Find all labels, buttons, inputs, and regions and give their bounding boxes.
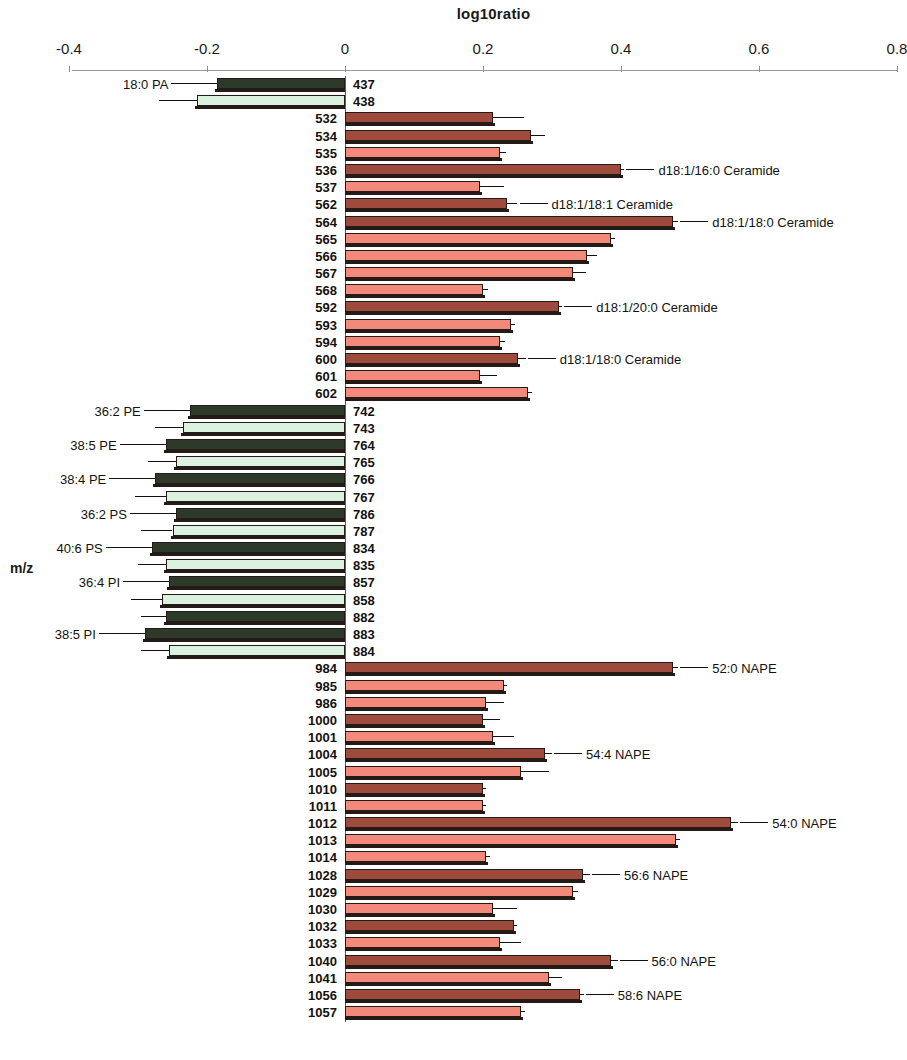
bar [217,78,345,89]
bar-shadow [345,278,575,281]
annotation-leader-line [680,667,708,668]
bar [166,491,345,502]
bar [345,714,483,725]
bar-row: 985 [0,678,907,695]
bar [345,680,504,691]
bar [345,662,673,673]
bar-shadow [153,484,345,487]
bar [345,250,587,261]
error-bar [486,856,489,857]
bar-row: 536d18:1/16:0 Ceramide [0,162,907,179]
bar-shadow [345,398,530,401]
bar-row: 562d18:1/18:1 Ceramide [0,196,907,213]
bar [345,766,521,777]
bar-shadow [345,914,495,917]
mz-value-label: 1005 [308,765,337,780]
bar [345,267,573,278]
bar-shadow [345,227,675,230]
chart-title: log10ratio [0,5,907,22]
mz-value-label: 1033 [308,936,337,951]
x-tick-label: 0.4 [611,40,632,57]
mz-value-label: 743 [353,421,375,436]
bar [345,886,573,897]
annotation-leader-line [586,994,614,995]
annotation-leader-line [109,478,155,479]
bar-shadow [345,330,513,333]
mz-value-label: 1056 [308,988,337,1003]
bar [166,439,345,450]
bar-shadow [345,794,485,797]
error-bar [493,908,517,909]
bar [345,697,486,708]
mz-value-label: 438 [353,94,375,109]
chart-title-text: log10ratio [457,5,531,22]
species-annotation: 40:6 PS [57,541,103,556]
x-tick-mark [207,66,208,72]
bar-shadow [345,209,509,212]
bar-shadow [345,347,502,350]
bar-row: 565 [0,231,907,248]
bar-shadow [345,777,523,780]
bar-row: 1011 [0,798,907,815]
bar [176,508,345,519]
bar [155,473,345,484]
bar-row: 601 [0,368,907,385]
mz-value-label: 764 [353,438,375,453]
bar [145,628,345,639]
annotation-leader-line [123,581,169,582]
mz-value-label: 1029 [308,885,337,900]
mz-value-label: 565 [315,232,337,247]
mz-value-label: 884 [353,644,375,659]
bar-row: 592d18:1/20:0 Ceramide [0,299,907,316]
bar-shadow [345,742,495,745]
error-bar [573,891,578,892]
error-bar [559,306,562,307]
bar [345,834,676,845]
mz-value-label: 593 [315,318,337,333]
bar [345,955,611,966]
bar-row: 1041 [0,970,907,987]
mz-value-label: 986 [315,696,337,711]
bar-shadow [345,966,613,969]
bar-shadow [345,312,561,315]
bar-row: 101254:0 NAPE [0,815,907,832]
bar-rows-container: 43718:0 PA438532534535536d18:1/16:0 Cera… [0,76,907,1021]
bar-shadow [345,1017,523,1020]
bar-row: 566 [0,248,907,265]
bar [197,95,345,106]
error-bar [141,530,172,531]
error-bar [155,427,183,428]
error-bar [141,616,165,617]
bar-row: 76438:5 PE [0,437,907,454]
species-annotation: 18:0 PA [123,77,168,92]
bar-row: 1033 [0,935,907,952]
bar [166,559,345,570]
bar-shadow [195,106,345,109]
mz-value-label: 594 [315,335,337,350]
x-tick-label: 0.6 [749,40,770,57]
annotation-leader-line [564,306,592,307]
annotation-leader-line [120,444,166,445]
annotation-leader-line [740,822,768,823]
error-bar [504,685,507,686]
bar [345,972,549,983]
bar-shadow [164,622,345,625]
bar-shadow [345,983,551,986]
bar [345,800,483,811]
bar-shadow [345,948,502,951]
bar-row: 765 [0,454,907,471]
bar-shadow [345,708,488,711]
error-bar [500,942,521,943]
bar [176,456,345,467]
bar-shadow [345,862,488,865]
bar-shadow [167,656,345,659]
bar-row: 88338:5 PI [0,626,907,643]
error-bar [131,599,162,600]
bar [345,319,511,330]
annotation-leader-line [144,410,190,411]
error-bar [148,461,176,462]
bar-shadow [164,502,345,505]
bar-row: 105658:6 NAPE [0,987,907,1004]
mz-value-label: 592 [315,300,337,315]
species-annotation: d18:1/18:0 Ceramide [560,352,681,367]
